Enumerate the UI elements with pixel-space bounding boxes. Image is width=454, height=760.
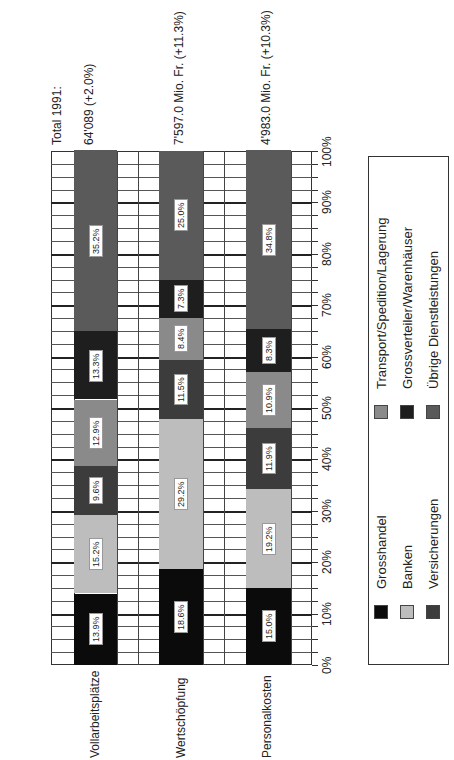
axis-tick [312, 202, 318, 203]
legend-label-transport: Transport/Spedition/Lagerung [374, 217, 389, 389]
axis-tick-label: 20% [320, 550, 334, 574]
legend-swatch-versicherungen [426, 605, 440, 619]
total-wertschoepfung: 7'597.0 Mio. Fr. (+11.3%) [172, 11, 186, 145]
axis-tick [312, 395, 318, 396]
legend-swatch-uebrige [426, 405, 440, 419]
grid-line-vertical [138, 151, 139, 665]
axis-tick [312, 485, 318, 486]
axis-tick [312, 305, 318, 306]
axis-tick [312, 601, 318, 602]
axis-tick-label: 70% [320, 293, 334, 317]
legend-label-grosshandel: Grosshandel [374, 515, 389, 589]
value-label: 10.9% [262, 385, 276, 417]
axis-tick [312, 421, 318, 422]
value-label: 25.0% [174, 200, 188, 232]
legend-swatch-grossverteiler [400, 405, 414, 419]
axis-tick [312, 241, 318, 242]
axis-tick [312, 588, 318, 589]
axis-tick [312, 562, 318, 563]
value-label: 29.2% [174, 479, 188, 511]
category-label-personalkosten: Personalkosten [260, 675, 274, 758]
legend: Grosshandel Banken Versicherungen Transp… [368, 156, 449, 665]
total-personalkosten: 4'983.0 Mio. Fr. (+10.3%) [259, 10, 273, 145]
legend-swatch-transport [374, 405, 388, 419]
grid-line-vertical [117, 151, 118, 665]
value-label: 18.6% [174, 602, 188, 634]
value-label: 8.3% [262, 338, 276, 365]
axis-tick [312, 408, 318, 409]
axis-tick [312, 267, 318, 268]
axis-tick [312, 447, 318, 448]
value-label: 7.3% [174, 285, 188, 312]
total-vollarbeitsplaetze: 64'089 (+2.0%) [82, 64, 96, 145]
value-label: 34.8% [262, 224, 276, 256]
value-label: 15.0% [262, 611, 276, 643]
axis-tick [312, 575, 318, 576]
grid-line-vertical [291, 151, 292, 665]
axis-tick-label: 90% [320, 190, 334, 214]
value-label: 9.6% [89, 478, 103, 505]
axis-tick [312, 626, 318, 627]
axis-tick [312, 280, 318, 281]
axis-tick-label: 60% [320, 345, 334, 369]
axis-tick [312, 292, 318, 293]
axis-tick [312, 537, 318, 538]
total-title: Total 1991: [50, 86, 64, 145]
axis-tick [312, 652, 318, 653]
legend-label-banken: Banken [400, 545, 415, 589]
axis-tick [312, 151, 318, 152]
grid-line-vertical [224, 151, 225, 665]
axis-tick [312, 164, 318, 165]
axis-tick [312, 215, 318, 216]
value-label: 8.4% [174, 326, 188, 353]
axis-tick-label: 40% [320, 447, 334, 471]
grid-line-vertical [203, 151, 204, 665]
axis-tick [312, 459, 318, 460]
axis-tick [312, 357, 318, 358]
axis-tick [312, 331, 318, 332]
value-label: 35.2% [89, 225, 103, 257]
axis-tick [312, 614, 318, 615]
value-label: 11.5% [174, 374, 188, 405]
value-label: 13.9% [89, 614, 103, 646]
axis-tick [312, 549, 318, 550]
legend-label-grossverteiler: Grossverteiler/Warenhäuser [400, 227, 415, 389]
value-label: 13.3% [89, 350, 103, 382]
axis-tick [312, 190, 318, 191]
axis-tick [312, 254, 318, 255]
axis-tick [312, 524, 318, 525]
axis-tick [312, 369, 318, 370]
axis-tick [312, 665, 318, 666]
axis-tick-label: 10% [320, 602, 334, 626]
category-label-vollarbeitsplaetze: Vollarbeitsplätze [88, 671, 102, 758]
axis-tick [312, 498, 318, 499]
axis-tick [312, 177, 318, 178]
axis-tick-label: 50% [320, 396, 334, 420]
axis-tick [312, 228, 318, 229]
legend-label-versicherungen: Versicherungen [426, 499, 441, 589]
axis-tick [312, 434, 318, 435]
value-label: 15.2% [89, 539, 103, 571]
legend-label-uebrige: Übrige Dienstleistungen [426, 251, 441, 389]
value-label: 11.9% [262, 443, 276, 474]
value-label: 12.9% [89, 417, 103, 449]
axis-tick-label: 100% [320, 136, 334, 167]
axis-tick [312, 382, 318, 383]
axis-tick [312, 639, 318, 640]
legend-swatch-banken [400, 605, 414, 619]
axis-tick [312, 344, 318, 345]
axis-tick [312, 318, 318, 319]
value-label: 19.2% [262, 523, 276, 555]
axis-tick [312, 511, 318, 512]
category-label-wertschoepfung: Wertschöpfung [174, 678, 188, 759]
legend-swatch-grosshandel [374, 605, 388, 619]
axis-tick-label: 80% [320, 242, 334, 266]
axis-tick [312, 472, 318, 473]
axis-tick-label: 0% [320, 656, 334, 673]
axis-tick-label: 30% [320, 499, 334, 523]
